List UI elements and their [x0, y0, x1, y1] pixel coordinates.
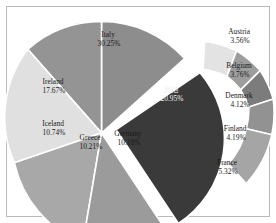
- pie-label-greece: Greece 10.21%: [80, 133, 103, 151]
- ring-label-austria: Austria 3.56%: [228, 27, 252, 45]
- pie-label-italy-pct: 30.25%: [98, 39, 121, 48]
- pie-label-iceland: Iceland 10.74%: [42, 119, 66, 137]
- pie-label-greece-pct: 10.21%: [80, 142, 103, 151]
- pie-label-other-pct: 20.95%: [161, 94, 184, 103]
- pie-label-iceland-name: Iceland: [42, 119, 64, 128]
- ring-label-austria-pct: 3.56%: [230, 36, 249, 45]
- ring-label-finland-pct: 4.19%: [226, 133, 245, 142]
- pie-label-ireland: Ireland 17.67%: [43, 77, 66, 95]
- ring-label-france: France 5.32%: [217, 158, 239, 176]
- pie-label-iceland-pct: 10.74%: [43, 128, 66, 137]
- ring-label-austria-name: Austria: [228, 27, 250, 36]
- pie-label-ireland-name: Ireland: [43, 77, 64, 86]
- ring-label-denmark-name: Denmark: [225, 91, 253, 100]
- ring-label-finland-name: Finland: [224, 124, 247, 133]
- pie-label-germany: Germany 10.18%: [114, 129, 143, 147]
- ring-label-belgium-name: Belgium: [226, 61, 252, 70]
- pie-label-germany-name: Germany: [114, 129, 142, 138]
- chart-container: Italy 30.25% Ireland 17.67% Iceland 10.7…: [0, 0, 276, 223]
- pie-of-pie-chart: Italy 30.25% Ireland 17.67% Iceland 10.7…: [0, 0, 276, 223]
- main-pie-group: [5, 21, 225, 223]
- pie-label-italy-name: Italy: [101, 30, 115, 39]
- ring-label-belgium-pct: 3.76%: [230, 70, 249, 79]
- pie-label-other-name: 其他: [164, 85, 179, 94]
- ring-label-france-pct: 5.32%: [218, 167, 237, 176]
- ring-label-france-name: France: [217, 158, 238, 167]
- pie-label-ireland-pct: 17.67%: [43, 86, 66, 95]
- pie-label-greece-name: Greece: [80, 133, 102, 142]
- ring-label-finland: Finland 4.19%: [224, 124, 248, 142]
- pie-label-germany-pct: 10.18%: [118, 138, 141, 147]
- ring-label-denmark-pct: 4.12%: [230, 100, 249, 109]
